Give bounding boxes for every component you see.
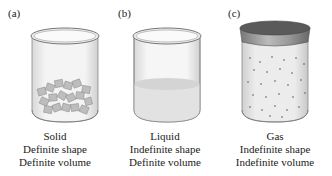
shape-label: Definite shape [0, 143, 110, 156]
state-label: Liquid [110, 130, 220, 143]
panel-gas: (c) Gas Indefini [220, 0, 330, 176]
state-label: Solid [0, 130, 110, 143]
volume-label: Definite volume [110, 156, 220, 169]
shape-label: Indefinite shape [110, 143, 220, 156]
caption: Liquid Indefinite shape Definite volume [110, 130, 220, 169]
caption: Solid Definite shape Definite volume [0, 130, 110, 169]
volume-label: Indefinite volume [220, 156, 330, 169]
caption: Gas Indefinite shape Indefinite volume [220, 130, 330, 169]
state-label: Gas [220, 130, 330, 143]
panel-solid: (a) [0, 0, 110, 176]
volume-label: Definite volume [0, 156, 110, 169]
shape-label: Indefinite shape [220, 143, 330, 156]
panel-liquid: (b) Liquid Indefinite shape Definite vol… [110, 0, 220, 176]
